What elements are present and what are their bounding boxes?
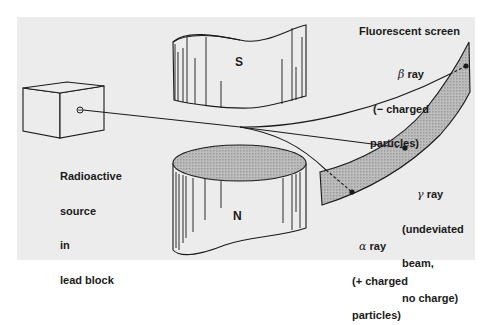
beta-desc-line: particles) <box>370 138 429 150</box>
alpha-name: ray <box>370 240 387 252</box>
screen-title: Fluorescent screen <box>359 26 460 38</box>
gamma-desc-line: no charge) <box>402 293 464 305</box>
south-pole-label: S <box>235 55 243 69</box>
gamma-name: ray <box>427 188 444 200</box>
source-label-line: Radioactive <box>60 171 122 183</box>
north-pole-label: N <box>233 209 242 223</box>
beta-name: ray <box>407 68 424 80</box>
beta-label: β ray (− charged particles) <box>370 46 429 161</box>
gamma-desc-line: beam, <box>402 258 464 270</box>
incident-beam <box>83 110 240 127</box>
alpha-label: α ray (+ charged particles) <box>352 218 408 325</box>
beta-desc-line: (− charged <box>370 104 429 116</box>
gamma-desc-line: (undeviated <box>402 224 464 236</box>
source-label: Radioactive source in lead block <box>60 148 122 298</box>
source-label-line: in <box>60 240 122 252</box>
alpha-impact-dot <box>349 189 354 194</box>
alpha-symbol: α <box>359 240 366 253</box>
source-label-line: lead block <box>60 275 122 287</box>
gamma-symbol: γ <box>417 188 424 201</box>
beta-symbol: β <box>398 68 404 81</box>
alpha-desc-line: (+ charged <box>352 276 408 288</box>
alpha-desc-line: particles) <box>352 310 408 322</box>
source-label-line: source <box>60 206 122 218</box>
lead-block <box>23 82 104 138</box>
beta-impact-dot <box>463 63 468 68</box>
gamma-label: γ ray (undeviated beam, no charge) <box>402 166 464 316</box>
gamma-ray-path <box>240 127 380 145</box>
